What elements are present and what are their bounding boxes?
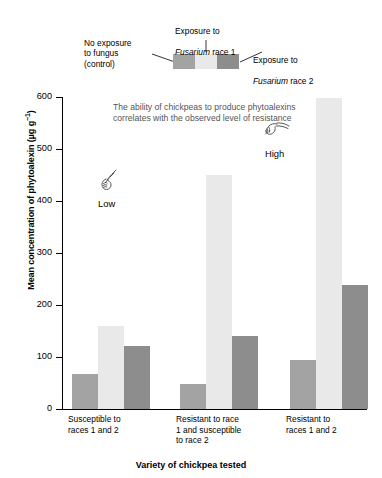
- legend-label-race1-genus: Fusarium: [175, 47, 210, 57]
- bar: [124, 346, 150, 409]
- bar: [180, 384, 206, 409]
- legend-label-race2-tail: race 2: [288, 76, 314, 86]
- annotation-low-label: Low: [98, 198, 115, 209]
- legend-label-race1: Exposure to Fusarium race 1: [175, 16, 236, 58]
- bar: [98, 326, 124, 409]
- bar: [232, 336, 258, 409]
- x-tick-label: Susceptible to races 1 and 2: [68, 414, 154, 435]
- x-axis-title: Variety of chickpea tested: [0, 460, 382, 470]
- legend: No exposure to fungus (control) Exposure…: [0, 0, 382, 86]
- legend-label-race1-tail: race 1: [210, 47, 236, 57]
- annotation-high-label: High: [265, 148, 284, 159]
- x-tick-label: Resistant to race 1 and susceptible to r…: [176, 414, 262, 446]
- bar: [72, 374, 98, 409]
- bar: [206, 175, 232, 409]
- pointing-hand-low-icon: [97, 168, 123, 194]
- legend-label-race2-line1: Exposure to: [253, 55, 298, 65]
- bar: [342, 285, 368, 409]
- legend-label-race2-genus: Fusarium: [253, 76, 288, 86]
- bar: [316, 98, 342, 409]
- legend-label-race2: Exposure to Fusarium race 2: [253, 45, 314, 87]
- legend-label-control: No exposure to fungus (control): [84, 38, 132, 69]
- chart-plot-area: Mean concentration of phytoalexin (µg g−…: [0, 86, 382, 478]
- x-axis-title-text: Variety of chickpea tested: [136, 460, 247, 470]
- pointing-hand-high-icon: [261, 120, 291, 144]
- legend-label-race1-line1: Exposure to: [175, 26, 220, 36]
- bar: [290, 360, 316, 409]
- x-tick-label: Resistant to races 1 and 2: [286, 414, 372, 435]
